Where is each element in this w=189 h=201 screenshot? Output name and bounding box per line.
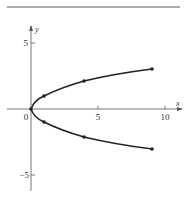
y-tick-label-neg5: −5 (19, 170, 29, 180)
curve-lower-branch (31, 109, 152, 149)
origin-label: 0 (24, 112, 29, 122)
x-tick-label-5: 5 (96, 112, 101, 122)
x-tick-label-10: 10 (161, 112, 171, 122)
y-axis-arrow-icon (29, 25, 33, 31)
point-9-3 (150, 67, 154, 71)
point-0-0 (29, 107, 33, 111)
curve-upper-branch (31, 69, 152, 109)
point-4-2 (82, 79, 86, 83)
y-axis-label: y (34, 25, 39, 34)
x-axis-label: x (175, 99, 180, 108)
point-9-neg3 (150, 147, 154, 151)
point-1-neg1 (42, 120, 46, 124)
y-tick-label-5: 5 (24, 38, 29, 48)
chart-canvas: 5 10 0 5 −5 y x (0, 0, 189, 201)
point-4-neg2 (82, 135, 86, 139)
point-1-1 (42, 94, 46, 98)
